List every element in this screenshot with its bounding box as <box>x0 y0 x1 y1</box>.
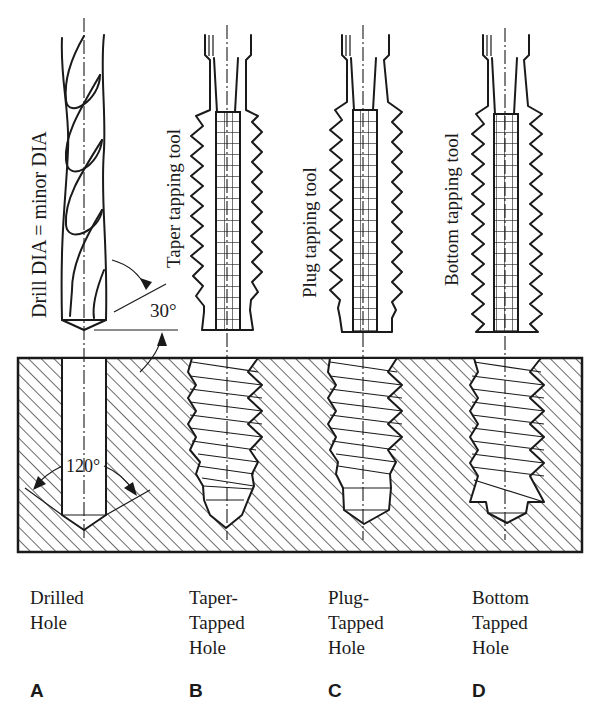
caption-a: Drilled Hole A <box>30 587 84 701</box>
arrowhead-icon <box>157 332 167 346</box>
panel-letter-b: B <box>189 680 203 701</box>
taper-tool-label: Taper tapping tool <box>163 129 184 268</box>
caption-c: Plug- Tapped Hole C <box>328 587 384 701</box>
bottom-tap-icon <box>472 35 542 332</box>
drill-point-angle-label: 120° <box>66 456 100 476</box>
plug-tool-label: Plug tapping tool <box>299 167 320 298</box>
svg-text:Hole: Hole <box>30 612 67 633</box>
svg-text:Drilled: Drilled <box>30 587 84 608</box>
drill-diameter-label: Drill DIA = minor DIA <box>28 131 50 318</box>
bottom-tool-label: Bottom tapping tool <box>441 133 462 286</box>
chamfer-angle-label: 30° <box>150 300 177 321</box>
bottom-tapped-hole <box>470 358 544 523</box>
panel-letter-a: A <box>30 680 44 701</box>
plug-tap-icon <box>330 35 402 332</box>
svg-text:Hole: Hole <box>328 637 365 658</box>
panel-letter-d: D <box>472 680 486 701</box>
svg-text:Bottom: Bottom <box>472 587 529 608</box>
svg-text:Hole: Hole <box>472 637 509 658</box>
tapping-diagram: 30° 120° Drill DIA = minor DIA Taper tap… <box>0 0 596 724</box>
svg-text:Tapped: Tapped <box>328 612 384 633</box>
panel-letter-c: C <box>328 680 342 701</box>
svg-text:Tapped: Tapped <box>472 612 528 633</box>
arrowhead-icon <box>140 278 152 290</box>
caption-b: Taper- Tapped Hole B <box>189 587 245 701</box>
caption-d: Bottom Tapped Hole D <box>472 587 529 701</box>
svg-text:Hole: Hole <box>189 637 226 658</box>
svg-text:Taper-: Taper- <box>189 587 238 608</box>
svg-text:Tapped: Tapped <box>189 612 245 633</box>
svg-text:Plug-: Plug- <box>328 587 369 608</box>
